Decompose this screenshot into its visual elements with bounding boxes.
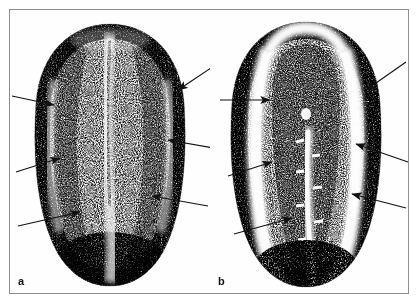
- figure-plate: a: [0, 0, 420, 305]
- panel-label-b: b: [218, 276, 225, 287]
- panel-b: b: [210, 10, 409, 293]
- specimen-b-micrograph: [210, 10, 409, 293]
- panel-label-a: a: [18, 276, 24, 287]
- specimen-a-micrograph: [10, 10, 210, 293]
- panel-a: a: [10, 10, 210, 293]
